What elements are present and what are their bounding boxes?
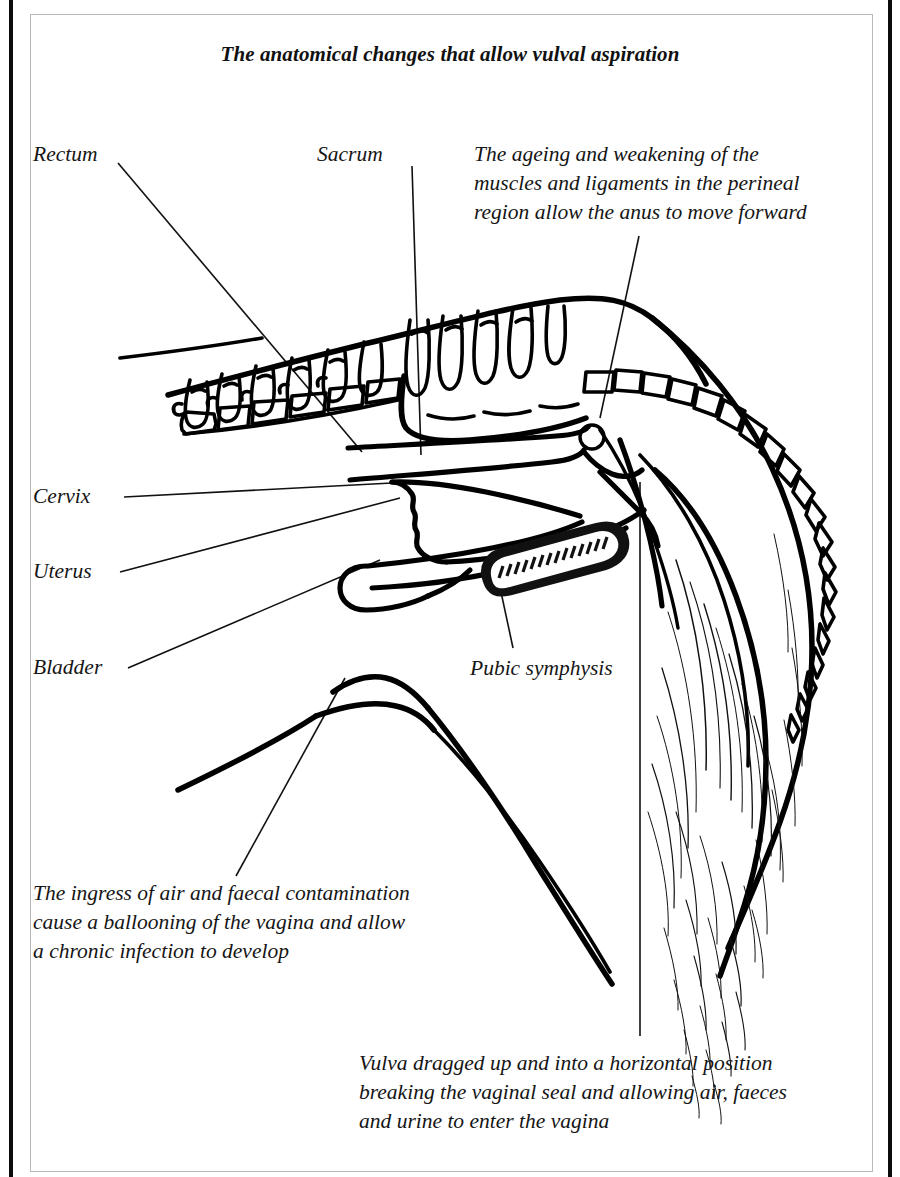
process-marking	[294, 368, 307, 370]
vulva-lower-contour	[316, 704, 434, 730]
sacral-marking	[481, 322, 497, 325]
sacral-spine	[546, 306, 565, 364]
figure-page: The anatomical changes that allow vulval…	[0, 0, 900, 1177]
leader-cervix	[124, 483, 392, 497]
leader-uterus	[120, 498, 400, 572]
uterus-vagina-dorsal	[392, 482, 580, 516]
sacral-ventral-dash	[428, 415, 474, 419]
label-pubic-symphysis: Pubic symphysis	[470, 654, 613, 682]
leader-bottom-left	[236, 678, 345, 876]
sacral-ventral-dash	[540, 404, 578, 408]
thigh-front-contour	[178, 716, 316, 790]
dorsal-contour	[168, 298, 706, 395]
sacral-marking	[516, 319, 532, 322]
process-marking	[258, 376, 271, 378]
label-cervix: Cervix	[33, 482, 90, 510]
label-uterus: Uterus	[33, 557, 92, 585]
caudal-vertebra	[614, 370, 642, 392]
caudal-vertebra	[642, 373, 670, 397]
label-sacrum: Sacrum	[317, 140, 383, 168]
sacral-marking	[446, 327, 462, 330]
label-rectum: Rectum	[33, 140, 97, 168]
process-marking	[224, 384, 237, 386]
caudal-vertebra	[788, 715, 799, 742]
tail-hair	[648, 534, 802, 1124]
caudal-vertebra	[668, 379, 696, 405]
process-marking	[330, 360, 343, 362]
process-marking	[192, 390, 205, 392]
sacral-ventral-dash	[484, 411, 530, 415]
transverse-process	[207, 397, 216, 406]
rectum-ventral-wall	[350, 450, 584, 480]
back-skin-line	[120, 338, 262, 358]
caudal-vertebra	[694, 388, 722, 416]
label-bladder: Bladder	[33, 653, 102, 681]
sacral-marking	[412, 331, 428, 334]
annotation-bottom-left: The ingress of air and faecal contaminat…	[33, 879, 503, 966]
rectum-and-anus	[348, 425, 678, 628]
cervix	[392, 482, 446, 562]
tail-inner-fold	[640, 455, 748, 766]
annotation-top-right: The ageing and weakening of the muscles …	[474, 140, 874, 227]
annotation-bottom-right: Vulva dragged up and into a horizontal p…	[359, 1049, 869, 1136]
transverse-process	[241, 391, 250, 400]
leader-sacrum	[412, 166, 421, 455]
